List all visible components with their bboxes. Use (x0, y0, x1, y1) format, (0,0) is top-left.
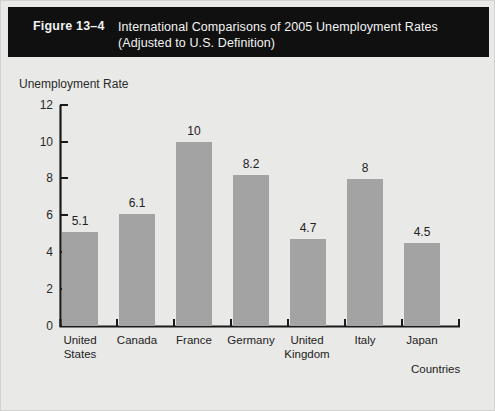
bar-value-canada: 6.1 (117, 196, 157, 210)
figure-title: International Comparisons of 2005 Unempl… (118, 19, 478, 51)
bar-italy[interactable] (347, 179, 383, 326)
bar-japan[interactable] (404, 243, 440, 326)
category-label-france: France (162, 333, 226, 347)
bar-germany[interactable] (233, 175, 269, 326)
bar-chart: Unemployment Rate (1, 57, 495, 411)
category-label-united-kingdom: United Kingdom (278, 333, 336, 361)
figure-title-line-1: International Comparisons of 2005 Unempl… (118, 20, 438, 34)
bar-france[interactable] (176, 142, 212, 326)
y-tick-label-2: 2 (29, 282, 53, 296)
bar-value-united-kingdom: 4.7 (288, 221, 328, 235)
figure-title-line-2: (Adjusted to U.S. Definition) (118, 35, 478, 51)
y-tick-label-4: 4 (29, 245, 53, 259)
y-tick-label-0: 0 (29, 319, 53, 333)
y-tick-label-8: 8 (29, 171, 53, 185)
bar-united-kingdom[interactable] (290, 239, 326, 326)
bar-canada[interactable] (119, 214, 155, 326)
bar-united-states[interactable] (62, 232, 98, 326)
bar-value-italy: 8 (345, 161, 385, 175)
bar-value-japan: 4.5 (402, 225, 442, 239)
y-tick-label-10: 10 (29, 135, 53, 149)
bar-value-united-states: 5.1 (60, 214, 100, 228)
category-label-japan: Japan (390, 333, 454, 347)
figure-number: Figure 13–4 (33, 19, 105, 33)
category-label-canada: Canada (105, 333, 169, 347)
figure-container: Figure 13–4 International Comparisons of… (0, 0, 495, 411)
y-tick-label-6: 6 (29, 208, 53, 222)
figure-header-band: Figure 13–4 International Comparisons of… (8, 7, 489, 57)
category-label-italy: Italy (333, 333, 397, 347)
category-label-united-states: United States (46, 333, 114, 361)
y-tick-label-12: 12 (29, 98, 53, 112)
x-axis-title: Countries (411, 363, 460, 375)
category-label-germany: Germany (219, 333, 283, 347)
bar-value-germany: 8.2 (231, 157, 271, 171)
bar-value-france: 10 (174, 124, 214, 138)
